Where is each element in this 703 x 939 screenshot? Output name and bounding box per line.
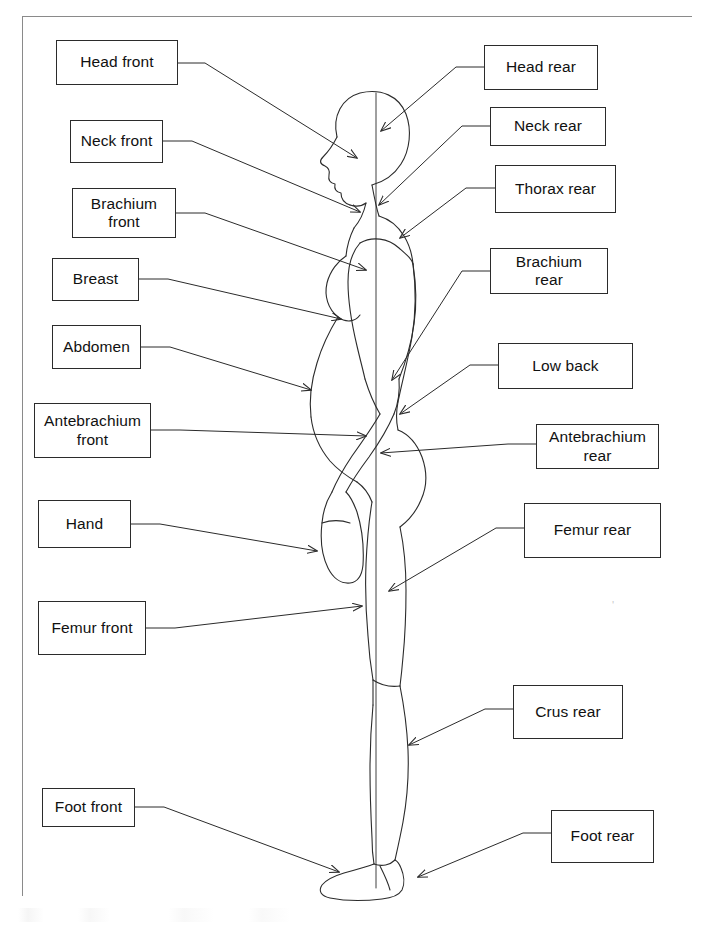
leader-thorax-rear xyxy=(400,188,495,238)
label-text-low-back: Low back xyxy=(528,357,602,375)
label-box-brachium-rear[interactable]: Brachium rear xyxy=(490,248,608,294)
leader-femur-front xyxy=(146,606,362,628)
leader-hand xyxy=(131,524,317,551)
leader-neck-rear xyxy=(379,126,490,205)
leader-brachium-rear xyxy=(392,271,490,380)
leader-foot-front xyxy=(135,807,339,872)
label-box-neck-front[interactable]: Neck front xyxy=(70,120,163,163)
label-text-crus-rear: Crus rear xyxy=(531,703,605,721)
label-box-head-front[interactable]: Head front xyxy=(56,40,178,85)
label-text-foot-rear: Foot rear xyxy=(567,827,639,845)
label-box-hand[interactable]: Hand xyxy=(38,500,131,548)
label-box-femur-rear[interactable]: Femur rear xyxy=(524,503,661,558)
leader-head-front xyxy=(178,63,357,158)
label-text-brachium-rear: Brachium rear xyxy=(512,253,586,290)
leader-antebrachium-front xyxy=(151,430,366,436)
label-box-femur-front[interactable]: Femur front xyxy=(38,601,146,655)
scan-artifact-tick: ' xyxy=(612,600,616,610)
leader-foot-rear xyxy=(418,833,551,877)
leader-breast xyxy=(139,279,341,319)
label-text-femur-rear: Femur rear xyxy=(550,521,636,539)
label-text-antebrachium-front: Antebrachium front xyxy=(40,412,145,449)
leader-antebrachium-rear xyxy=(381,444,536,453)
label-text-foot-front: Foot front xyxy=(51,798,126,816)
label-text-thorax-rear: Thorax rear xyxy=(511,180,600,198)
label-box-thorax-rear[interactable]: Thorax rear xyxy=(495,165,616,213)
label-box-abdomen[interactable]: Abdomen xyxy=(52,325,141,369)
leader-crus-rear xyxy=(409,709,513,745)
label-text-brachium-front: Brachium front xyxy=(87,195,161,232)
label-text-neck-front: Neck front xyxy=(77,132,157,150)
label-box-neck-rear[interactable]: Neck rear xyxy=(490,107,606,146)
leader-brachium-front xyxy=(176,213,366,270)
label-text-abdomen: Abdomen xyxy=(59,338,134,356)
label-box-breast[interactable]: Breast xyxy=(52,258,139,301)
leader-abdomen xyxy=(141,347,311,390)
label-text-head-front: Head front xyxy=(76,53,157,71)
label-text-breast: Breast xyxy=(69,270,122,288)
label-box-foot-rear[interactable]: Foot rear xyxy=(551,810,654,863)
label-box-crus-rear[interactable]: Crus rear xyxy=(513,685,623,739)
label-box-antebrachium-front[interactable]: Antebrachium front xyxy=(34,403,151,458)
label-box-brachium-front[interactable]: Brachium front xyxy=(72,188,176,238)
label-text-antebrachium-rear: Antebrachium rear xyxy=(545,428,650,465)
label-box-head-rear[interactable]: Head rear xyxy=(484,45,598,90)
label-text-femur-front: Femur front xyxy=(47,619,136,637)
leader-neck-front xyxy=(163,141,360,212)
label-box-antebrachium-rear[interactable]: Antebrachium rear xyxy=(536,424,659,469)
leader-head-rear xyxy=(381,67,484,131)
diagram-page: Head frontNeck frontBrachium frontBreast… xyxy=(0,0,703,939)
label-box-low-back[interactable]: Low back xyxy=(498,343,633,389)
label-text-hand: Hand xyxy=(62,515,107,533)
leader-low-back xyxy=(400,365,498,414)
label-text-head-rear: Head rear xyxy=(502,58,580,76)
label-box-foot-front[interactable]: Foot front xyxy=(42,788,135,827)
label-text-neck-rear: Neck rear xyxy=(510,117,586,135)
leader-femur-rear xyxy=(389,528,524,591)
